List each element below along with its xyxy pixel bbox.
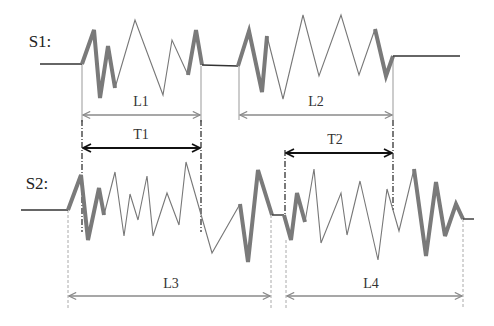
dimension-label-l3: L3 [163,276,179,292]
signal-s1-segment-thick [375,29,393,76]
signal-s1-segment-thick [188,30,202,75]
signal-s2-segment-thick [284,193,305,240]
signal-s1-label: S1: [29,32,52,52]
signal-s1-waveform [40,15,460,99]
signal-s2-segment-thick [414,169,463,256]
signal-s2-segment-thin [104,162,240,253]
dimension-label-l4: L4 [363,276,379,292]
dimension-label-l2: L2 [308,94,324,110]
signal-s1-segment-thin [115,20,188,95]
signal-s2-segment-thick [68,175,104,240]
guide-lines [68,57,463,308]
dimension-label-t2: T2 [327,132,343,148]
dimension-label-l1: L1 [133,94,149,110]
signal-s2-segment-thick [240,170,272,262]
signal-s2-label: S2: [26,174,49,194]
signal-s2-segment-thin [305,169,414,260]
signal-s1-segment-thin [267,15,375,99]
signal-s1-segment-flat [202,65,238,66]
signal-s1-segment-thick [82,30,115,98]
signal-s1-segment-thick [238,31,267,92]
signal-s2-waveform [21,162,474,262]
dimension-label-t1: T1 [133,127,149,143]
waveform-diagram [0,0,494,326]
